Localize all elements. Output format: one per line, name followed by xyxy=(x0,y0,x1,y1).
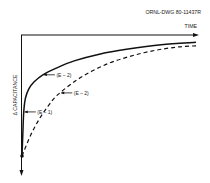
series-line-solid xyxy=(22,42,196,156)
x-axis-label: TIME xyxy=(185,23,198,29)
annotation-label-2: (E – 2) xyxy=(74,90,89,96)
y-axis-label: Δ CAPACITANCE xyxy=(12,74,18,115)
figure-id: ORNL-DWG 80-11437R xyxy=(145,9,201,15)
x-axis-arrow-icon xyxy=(193,33,199,37)
series-line-dashed xyxy=(22,46,196,156)
chart: ORNL-DWG 80-11437R TIME Δ CAPACITANCE (E… xyxy=(0,0,210,183)
annotation-label-1: (E – 1) xyxy=(37,109,52,115)
origin-point xyxy=(20,154,24,158)
y-axis-arrow-icon xyxy=(20,170,24,176)
annotation-arrow-icon xyxy=(24,111,28,114)
annotation-label-0: (E – 2) xyxy=(56,72,71,78)
annotation-arrow-icon xyxy=(61,92,65,95)
